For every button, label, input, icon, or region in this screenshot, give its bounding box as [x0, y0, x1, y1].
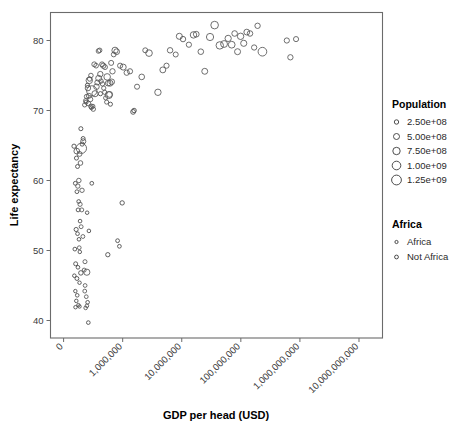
legend-population-label: 2.50e+08	[407, 116, 447, 127]
x-axis-title: GDP per head (USD)	[163, 409, 269, 421]
legend-population-label: 1.25e+09	[407, 174, 447, 185]
y-tick-label: 80	[33, 35, 44, 46]
legend-africa-label: Africa	[407, 236, 432, 247]
legend-population-label: 5.00e+08	[407, 131, 447, 142]
legend-population-label: 7.50e+08	[407, 145, 447, 156]
legend-title-africa: Africa	[392, 218, 422, 230]
y-tick-label: 50	[33, 245, 44, 256]
y-tick-label: 70	[33, 105, 44, 116]
y-tick-label: 40	[33, 315, 44, 326]
plot-canvas: 4050607080 01,000,00010,000,000100,000,0…	[0, 0, 462, 441]
scatter-plot-figure: 4050607080 01,000,00010,000,000100,000,0…	[0, 0, 462, 441]
y-axis-title: Life expectancy	[8, 143, 20, 226]
y-tick-label: 60	[33, 175, 44, 186]
legend-population-label: 1.00e+09	[407, 160, 447, 171]
legend-title-population: Population	[392, 98, 446, 110]
legend-africa-label: Not Africa	[407, 251, 449, 262]
